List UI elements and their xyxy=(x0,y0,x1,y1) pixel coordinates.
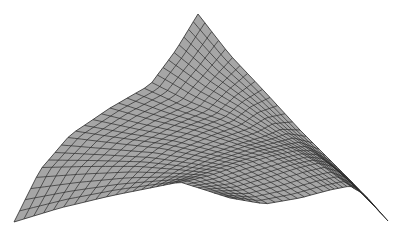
wireframe-surface xyxy=(0,0,401,234)
surface-plot: 3D wireframe surface mesh xyxy=(0,0,401,234)
